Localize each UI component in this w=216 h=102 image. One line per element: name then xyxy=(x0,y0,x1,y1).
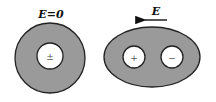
field-label: E xyxy=(151,5,161,18)
neutral-conductor: ± E=0 xyxy=(15,8,85,93)
outer-ellipse xyxy=(104,27,200,87)
neutral-charge-sign: ± xyxy=(46,52,54,62)
positive-sign: + xyxy=(130,53,138,63)
diagram-canvas: ± E=0 + − E xyxy=(0,0,216,102)
zero-field-label: E=0 xyxy=(37,8,64,21)
negative-sign: − xyxy=(168,53,176,63)
polarized-conductor: + − E xyxy=(104,5,200,87)
